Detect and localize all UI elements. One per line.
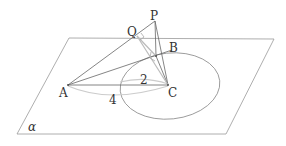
segment-qb: [137, 36, 156, 56]
geometry-diagram: P Q B A C 2 4 α: [0, 0, 286, 146]
label-plane-alpha: α: [28, 120, 36, 134]
point-b-dot: [155, 55, 157, 57]
label-a: A: [58, 86, 68, 100]
label-p: P: [150, 9, 158, 23]
label-bc-length: 2: [140, 73, 148, 87]
label-c: C: [168, 86, 177, 100]
arc-ac: [68, 86, 168, 95]
label-q: Q: [127, 25, 137, 39]
label-ac-length: 4: [109, 93, 117, 107]
label-b: B: [169, 41, 178, 55]
